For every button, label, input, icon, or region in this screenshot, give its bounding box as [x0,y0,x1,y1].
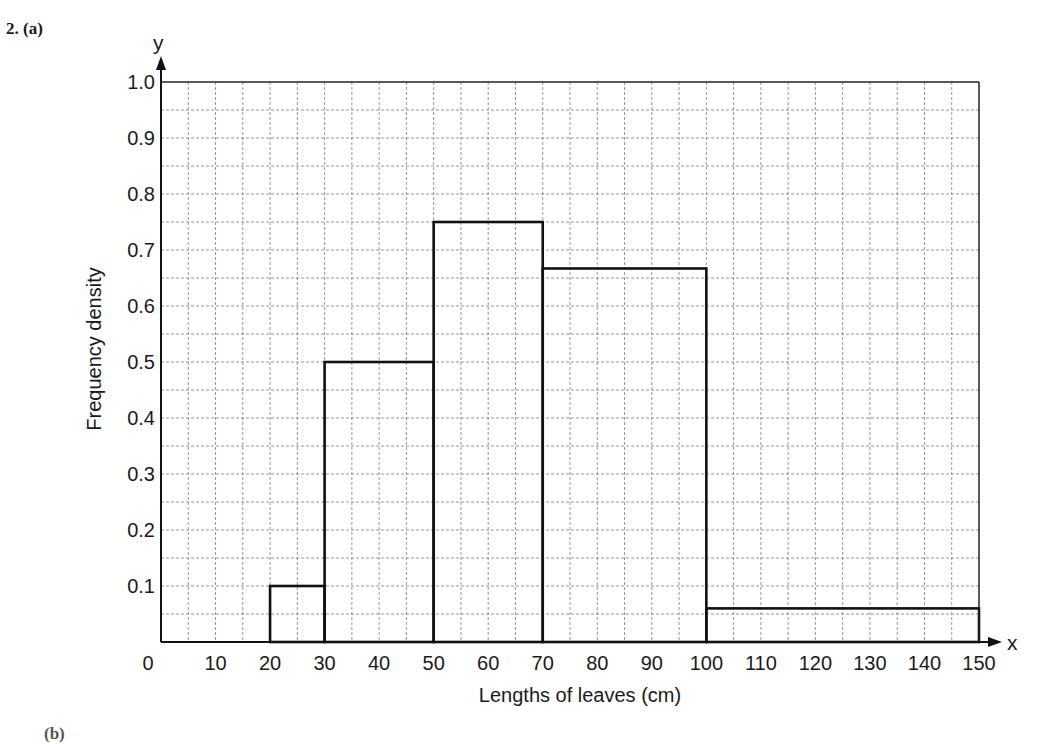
y-tick-label: 0.7 [127,239,155,261]
x-tick-label: 50 [423,652,445,674]
x-tick-label: 20 [259,652,281,674]
x-tick-label: 0 [142,652,153,674]
x-axis-title: Lengths of leaves (cm) [479,684,681,706]
x-tick-label: 90 [641,652,663,674]
x-tick-label: 70 [532,652,554,674]
x-tick-label: 80 [586,652,608,674]
x-tick-label: 40 [368,652,390,674]
y-tick-labels: 0.10.20.30.40.50.60.70.80.91.0 [127,71,155,597]
y-tick-label: 0.5 [127,351,155,373]
y-tick-label: 0.6 [127,295,155,317]
y-axis-arrow-icon [156,56,166,70]
y-axis-title: Frequency density [83,267,105,430]
x-tick-label: 10 [204,652,226,674]
x-tick-label: 100 [690,652,723,674]
x-tick-label: 110 [745,652,777,674]
axes: y x [153,31,1018,654]
y-tick-label: 0.9 [127,127,155,149]
y-tick-label: 0.8 [127,183,155,205]
grid-lines [161,82,979,642]
x-axis-arrow-icon [988,637,1002,647]
x-tick-labels: 0102030405060708090100110120130140150 [142,652,995,674]
y-tick-label: 1.0 [127,71,155,93]
y-tick-label: 0.3 [127,463,155,485]
x-tick-label: 130 [853,652,886,674]
y-tick-label: 0.2 [127,519,155,541]
y-tick-label: 0.1 [127,575,155,597]
y-tick-label: 0.4 [127,407,155,429]
x-tick-label: 140 [908,652,941,674]
x-axis-letter: x [1007,631,1018,654]
x-tick-label: 30 [313,652,335,674]
x-tick-label: 150 [962,652,995,674]
x-tick-label: 120 [799,652,832,674]
x-tick-label: 60 [477,652,499,674]
y-axis-letter: y [153,31,164,54]
